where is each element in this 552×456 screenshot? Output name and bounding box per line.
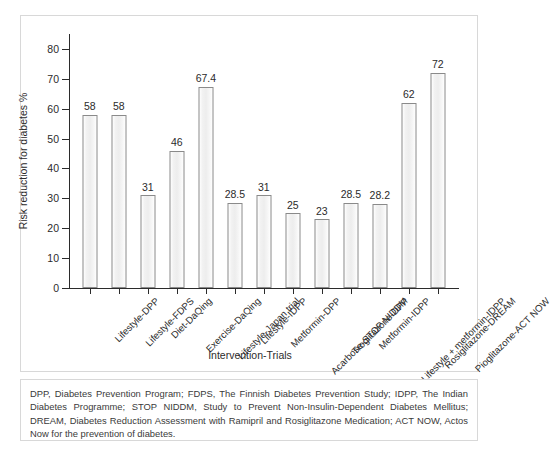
bar	[401, 103, 416, 288]
bar-value-label: 31	[258, 182, 270, 193]
y-axis-tick-mark	[62, 258, 69, 259]
bar-value-label: 46	[171, 137, 183, 148]
y-axis-tick-label: 70	[47, 74, 59, 85]
bar	[227, 203, 242, 288]
x-axis-tick-mark	[90, 288, 91, 294]
bar-value-label: 58	[84, 101, 96, 112]
y-axis-tick-label: 30	[47, 193, 59, 204]
bar	[314, 219, 329, 288]
y-axis-tick-label: 40	[47, 163, 59, 174]
x-axis-tick-mark	[322, 288, 323, 294]
bars-layer: 5858314667.428.531252328.528.26272	[69, 34, 459, 288]
x-axis-tick-mark	[177, 288, 178, 294]
footnote-text: DPP, Diabetes Prevention Program; FDPS, …	[30, 387, 468, 440]
x-axis-tick-mark	[119, 288, 120, 294]
y-axis-tick-mark	[62, 109, 69, 110]
x-axis-tick-label: Lifestyle + metformin-IDPP	[419, 296, 507, 384]
y-axis-tick-label: 50	[47, 133, 59, 144]
x-axis-tick-mark	[293, 288, 294, 294]
x-axis-tick-mark	[148, 288, 149, 294]
figure-frame: Risk reduction for diabetes % 0102030405…	[20, 15, 478, 372]
bar-value-label: 23	[316, 206, 328, 217]
bar-value-label: 25	[287, 200, 299, 211]
y-axis-tick-mark	[62, 228, 69, 229]
y-axis-tick-mark	[62, 49, 69, 50]
y-axis-title: Risk reduction for diabetes %	[17, 34, 31, 288]
bar-value-label: 62	[403, 89, 415, 100]
x-axis-tick-mark	[409, 288, 410, 294]
x-axis-title: Intervention-Trials	[21, 349, 479, 361]
x-axis-tick-mark	[380, 288, 381, 294]
bar-value-label: 31	[142, 182, 154, 193]
y-axis-tick-label: 60	[47, 103, 59, 114]
x-axis-tick-mark	[264, 288, 265, 294]
bar	[111, 115, 126, 288]
bar-value-label: 72	[432, 59, 444, 70]
bar	[198, 87, 213, 288]
x-axis-tick-mark	[235, 288, 236, 294]
x-axis-ticks	[69, 288, 459, 294]
x-axis-tick-mark	[206, 288, 207, 294]
x-axis-tick-mark	[351, 288, 352, 294]
bar-value-label: 67.4	[196, 73, 216, 84]
bar-value-label: 28.5	[225, 189, 245, 200]
bar	[343, 203, 358, 288]
x-axis-tick-labels: Lifestyle-DPPLifestyle-FDPSDiet-DaQingEx…	[69, 296, 459, 374]
bar	[256, 195, 271, 288]
bar	[285, 213, 300, 288]
bar-group: 72	[418, 34, 458, 288]
y-axis-tick-label: 10	[47, 253, 59, 264]
bar-value-label: 28.5	[341, 189, 361, 200]
bar	[82, 115, 97, 288]
footnote-box: DPP, Diabetes Prevention Program; FDPS, …	[20, 379, 478, 441]
y-axis-tick-mark	[62, 168, 69, 169]
bar	[140, 195, 155, 288]
bar-value-label: 58	[113, 101, 125, 112]
bar	[169, 151, 184, 288]
bar	[372, 204, 387, 288]
y-axis-tick-label: 0	[53, 283, 59, 294]
y-axis-tick-label: 80	[47, 44, 59, 55]
y-axis-tick-mark	[62, 139, 69, 140]
y-axis-tick-mark	[62, 288, 69, 289]
bar-value-label: 28.2	[370, 190, 390, 201]
y-axis-tick-label: 20	[47, 223, 59, 234]
x-axis-tick-mark	[438, 288, 439, 294]
bar	[430, 73, 445, 288]
y-axis-tick-mark	[62, 79, 69, 80]
y-axis-tick-mark	[62, 198, 69, 199]
